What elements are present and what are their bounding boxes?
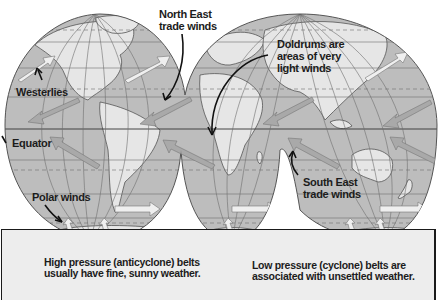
- se-trade-label-1: South East: [303, 176, 357, 188]
- wind-belt-map-diagram: North East trade winds Doldrums are area…: [0, 0, 438, 301]
- ne-trade-label-1: North East: [159, 8, 212, 20]
- ne-trade-label-2: trade winds: [159, 20, 217, 32]
- doldrums-label-2: areas of very: [277, 50, 341, 62]
- equator-label: Equator: [12, 137, 51, 149]
- doldrums-label-1: Doldrums are: [277, 38, 344, 50]
- low-pressure-legend-line2: associated with unsettled weather.: [252, 271, 415, 282]
- se-trade-label-2: trade winds: [303, 188, 361, 200]
- high-pressure-legend-line2: usually have fine, sunny weather.: [44, 268, 200, 279]
- polar-winds-label: Polar winds: [32, 191, 90, 203]
- westerlies-label: Westerlies: [16, 86, 68, 98]
- doldrums-label-3: light winds: [277, 62, 331, 74]
